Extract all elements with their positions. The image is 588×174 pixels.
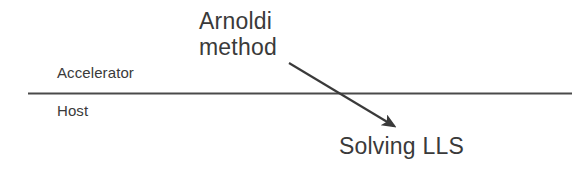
arnoldi-to-lls-arrow [289, 63, 394, 126]
arnoldi-annotation-line1: Arnoldi [199, 8, 272, 34]
solving-lls-annotation: Solving LLS [339, 133, 464, 159]
arrow-layer [0, 0, 588, 174]
accelerator-region-label: Accelerator [57, 64, 134, 82]
diagram-canvas: Accelerator Host Arnoldi method Solving … [0, 0, 588, 174]
divider-layer [0, 0, 588, 174]
arnoldi-method-annotation: Arnoldi method [199, 8, 277, 60]
arnoldi-annotation-line2: method [199, 34, 277, 60]
host-region-label: Host [57, 102, 88, 120]
